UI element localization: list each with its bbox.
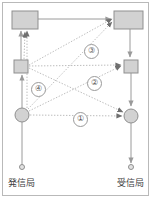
protocol-label-1: ① [73, 112, 88, 127]
diagram-canvas: ① ② ③ ④ 発信局 受信局 [0, 0, 152, 199]
protocol-label-3: ③ [84, 44, 99, 59]
diagram-vector-layer [0, 0, 152, 199]
left-layer3-box [12, 11, 38, 29]
right-layer3-box [114, 11, 143, 29]
left-terminal-dot [20, 165, 25, 170]
left-station-label: 発信局 [8, 176, 35, 189]
peer-protocol-dotted-lines [24, 19, 123, 116]
left-layer1-node [15, 108, 29, 122]
protocol-label-4: ④ [31, 82, 46, 97]
protocol-label-2: ② [87, 76, 102, 91]
right-layer1-node [124, 109, 138, 123]
right-station-vertical-flow [130, 29, 131, 163]
protocol-line-l2-r2 [29, 65, 121, 66]
right-terminal-dot [129, 165, 134, 170]
right-layer2-box [124, 60, 138, 73]
left-station-vertical-flow [21, 31, 22, 167]
protocol-line-l2-l3 [24, 32, 25, 59]
right-station-label: 受信局 [117, 176, 144, 189]
left-layer2-box [14, 60, 28, 73]
protocol-line-l2-r3 [29, 19, 112, 65]
